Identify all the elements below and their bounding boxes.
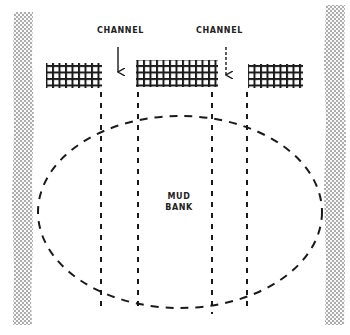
left-bank — [12, 12, 34, 325]
river-banks — [12, 5, 346, 325]
grid-block-right — [248, 64, 303, 88]
mud-bank-label-line1: MUD — [168, 192, 191, 201]
mud-bank-label-line2: BANK — [165, 203, 193, 212]
mud-bank-label: MUD BANK — [165, 192, 193, 212]
mud-bank-outline — [38, 116, 322, 308]
right-bank — [324, 5, 346, 325]
channel-label-right: CHANNEL — [196, 26, 243, 35]
channel-label-left: CHANNEL — [97, 26, 144, 35]
channel-mud-bank-diagram: CHANNEL CHANNEL MUD BANK — [0, 0, 350, 335]
grid-blocks — [46, 60, 303, 88]
grid-block-center — [136, 60, 218, 87]
grid-block-left — [46, 63, 102, 88]
